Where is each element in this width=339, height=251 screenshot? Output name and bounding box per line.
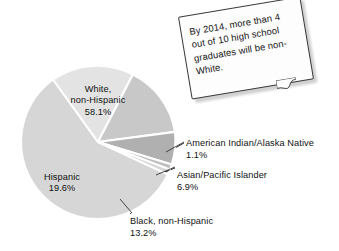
pie-label-black-value: 13.2% [130, 228, 213, 240]
figure-canvas: White, non-Hispanic 58.1% Hispanic 19.6%… [0, 0, 339, 251]
pie-label-hispanic-value: 19.6% [23, 183, 101, 194]
pie-label-american-indian-alaska-native: American Indian/Alaska Native 1.1% [186, 138, 314, 161]
pie-label-asian-value: 6.9% [177, 182, 267, 194]
pie-label-white-value: 58.1% [47, 107, 149, 118]
pie-label-hispanic: Hispanic 19.6% [23, 172, 101, 195]
annotation-callout: By 2014, more than 4 out of 10 high scho… [178, 0, 314, 100]
pie-label-white-line2: non-Hispanic [47, 95, 149, 106]
pie-label-white-non-hispanic: White, non-Hispanic 58.1% [47, 84, 149, 118]
pie-label-amerind-value: 1.1% [186, 150, 314, 162]
pie-label-black-non-hispanic: Black, non-Hispanic 13.2% [130, 216, 213, 239]
pie-label-asian-pacific-islander: Asian/Pacific Islander 6.9% [177, 170, 267, 193]
pie-label-black-line1: Black, non-Hispanic [130, 216, 213, 228]
pie-label-amerind-line1: American Indian/Alaska Native [186, 138, 314, 150]
pie-label-asian-line1: Asian/Pacific Islander [177, 170, 267, 182]
pie-label-white-line1: White, [47, 84, 149, 95]
pie-label-hispanic-line1: Hispanic [23, 172, 101, 183]
